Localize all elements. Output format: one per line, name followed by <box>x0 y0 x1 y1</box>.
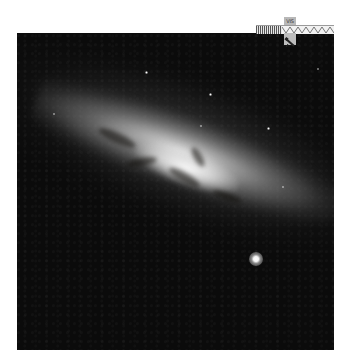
bright-star <box>249 252 263 266</box>
star <box>282 186 284 188</box>
star <box>200 125 202 127</box>
galaxy-photo <box>17 33 334 350</box>
ruler-ticks <box>256 26 282 34</box>
star <box>145 71 148 74</box>
star <box>317 68 319 70</box>
star <box>209 93 212 96</box>
band-label: VIS <box>284 17 296 25</box>
telescope-icon <box>284 33 296 45</box>
star <box>267 127 270 130</box>
star <box>53 113 55 115</box>
